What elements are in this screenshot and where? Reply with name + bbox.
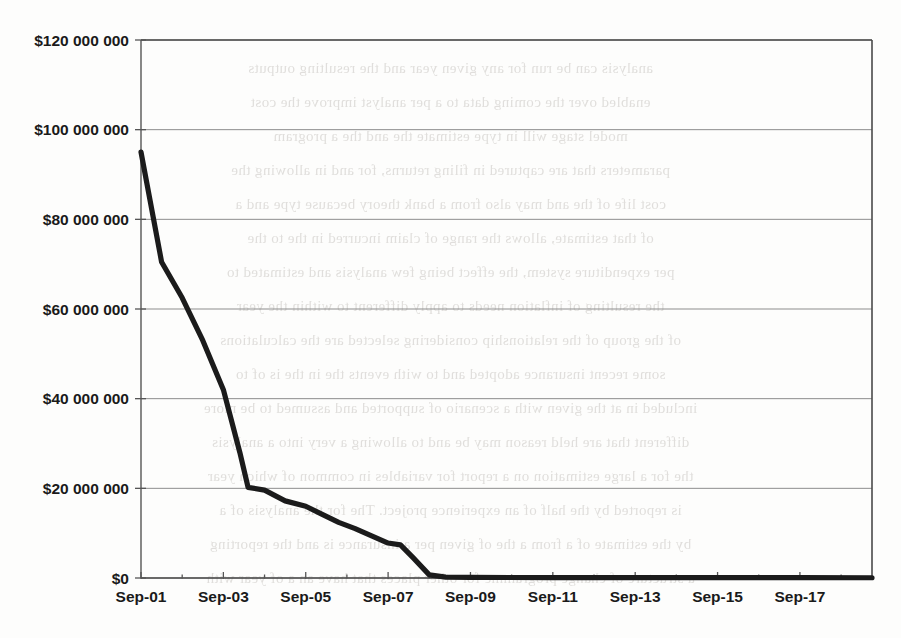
x-axis-tick-label: Sep-03 xyxy=(198,588,249,605)
y-axis-tick-label: $80 000 000 xyxy=(43,211,129,228)
x-axis-tick-label: Sep-07 xyxy=(363,588,414,605)
y-axis-tick-label: $0 xyxy=(112,570,129,587)
y-axis-tick-label: $60 000 000 xyxy=(43,301,129,318)
x-axis-tick-label: Sep-11 xyxy=(528,588,578,605)
x-axis-tick-label: Sep-01 xyxy=(116,588,167,605)
chart-svg: $0$20 000 000$40 000 000$60 000 000$80 0… xyxy=(0,0,901,638)
data-series-group xyxy=(141,152,872,578)
series-line-outstanding-balance xyxy=(141,152,872,578)
x-axis-tick-label: Sep-05 xyxy=(280,588,331,605)
line-chart: $0$20 000 000$40 000 000$60 000 000$80 0… xyxy=(0,0,901,638)
gridlines-group xyxy=(141,40,872,578)
x-axis-tick-label: Sep-15 xyxy=(692,588,743,605)
chart-page: analysis can be run for any given year a… xyxy=(0,0,901,638)
y-axis-tick-label: $20 000 000 xyxy=(43,480,129,497)
y-axis-tick-label: $120 000 000 xyxy=(34,32,129,49)
x-axis-labels-group: Sep-01Sep-03Sep-05Sep-07Sep-09Sep-11Sep-… xyxy=(116,588,826,605)
x-axis-tick-label: Sep-09 xyxy=(445,588,496,605)
x-axis-tick-label: Sep-13 xyxy=(610,588,661,605)
x-axis-tick-label: Sep-17 xyxy=(775,588,826,605)
y-axis-tick-label: $40 000 000 xyxy=(43,390,129,407)
y-axis-tick-label: $100 000 000 xyxy=(34,121,129,138)
y-axis-labels-group: $0$20 000 000$40 000 000$60 000 000$80 0… xyxy=(34,32,129,587)
